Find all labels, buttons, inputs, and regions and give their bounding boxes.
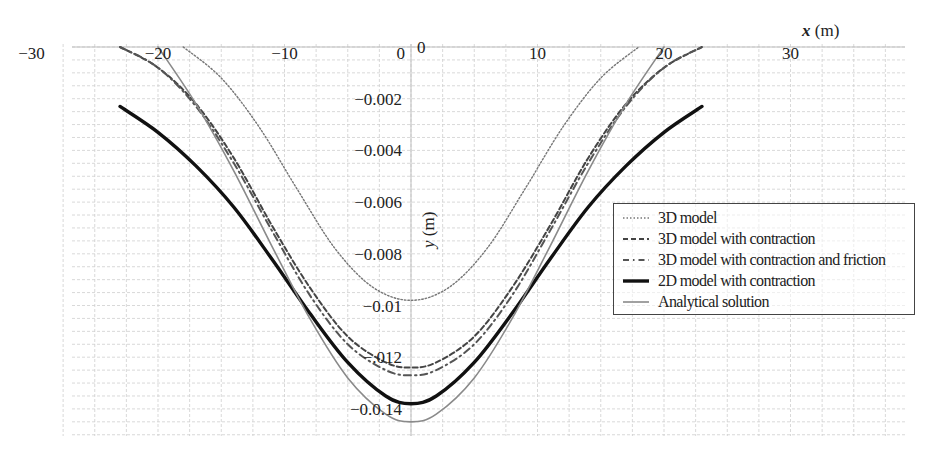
x-axis-unit: (m) (815, 21, 840, 40)
x-axis-title: x (m) (801, 21, 839, 40)
thick-line-swatch-icon (621, 271, 651, 291)
dashdot-line-swatch-icon (621, 250, 651, 270)
x-tick-label: 30 (782, 44, 799, 63)
y-tick-label: −0.01 (363, 297, 402, 316)
dashed-line-swatch-icon (621, 229, 651, 249)
x-tick-label: −20 (145, 44, 172, 63)
x-tick-label: 0 (397, 44, 406, 63)
legend-item-analytical: Analytical solution (614, 292, 914, 312)
y-tick-label: −0.004 (354, 141, 402, 160)
dotted-line-swatch-icon (621, 208, 651, 228)
y-tick-label: −.012 (363, 348, 402, 367)
legend-item-2d-contraction: 2D model with contraction (614, 271, 914, 291)
y-tick-label: −0.008 (354, 245, 402, 264)
legend-label: Analytical solution (658, 293, 769, 311)
y-axis-title: y (m) (419, 212, 438, 250)
y-axis-var: y (419, 240, 438, 250)
y-axis-unit: (m) (419, 212, 438, 237)
x-tick-label: −30 (18, 44, 45, 63)
y-tick-label: −0.0.14 (350, 400, 403, 419)
x-tick-label: 20 (656, 44, 673, 63)
legend-label: 3D model (658, 209, 717, 227)
x-axis-var: x (801, 21, 811, 40)
y-tick-label: −0.006 (354, 193, 402, 212)
legend-label: 2D model with contraction (658, 272, 815, 290)
legend-item-3d-contraction-friction: 3D model with contraction and friction (614, 250, 914, 270)
y-tick-label: −0.002 (354, 90, 402, 109)
x-tick-label: −10 (271, 44, 298, 63)
legend-item-3d-model: 3D model (614, 208, 914, 228)
legend: 3D model 3D model with contraction 3D mo… (613, 203, 915, 315)
legend-item-3d-contraction: 3D model with contraction (614, 229, 914, 249)
legend-label: 3D model with contraction (658, 230, 815, 248)
y-tick-label: 0 (417, 38, 426, 57)
legend-label: 3D model with contraction and friction (658, 251, 885, 269)
y-tick-labels: 0−0.002−0.004−0.006−0.008−0.01−.012−0.0.… (350, 38, 426, 419)
thin-line-swatch-icon (621, 292, 651, 312)
x-tick-label: 10 (529, 44, 546, 63)
